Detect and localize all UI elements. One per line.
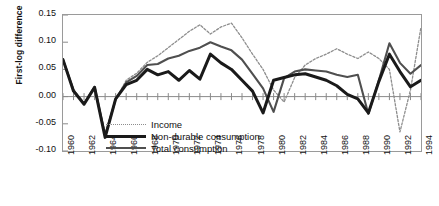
x-tick-label: 1982 [298, 135, 308, 155]
y-tick-label: 0.00 [22, 90, 56, 100]
x-tick-label: 1990 [382, 135, 392, 155]
legend-label-total: Total consumption [151, 143, 228, 154]
legend-label-income: Income [151, 119, 182, 130]
y-tick-label: 0.10 [22, 35, 56, 45]
chart-legend: Income Non-durable consumption Total con… [106, 118, 260, 154]
income-line-swatch-icon [106, 124, 146, 125]
legend-item-total: Total consumption [106, 142, 260, 154]
chart-figure: First-log difference 0.150.100.050.00-0.… [0, 0, 439, 206]
y-tick-label: -0.10 [22, 144, 56, 154]
nondurable-line-swatch-icon [106, 135, 146, 138]
x-tick-label: 1984 [319, 135, 329, 155]
total-line-swatch-icon [106, 147, 146, 149]
x-tick-label: 1994 [424, 135, 434, 155]
x-tick-label: 1960 [66, 135, 76, 155]
y-tick-label: -0.05 [22, 117, 56, 127]
legend-item-income: Income [106, 118, 260, 130]
x-tick-label: 1988 [361, 135, 371, 155]
x-tick-label: 1992 [403, 135, 413, 155]
legend-item-nondurable: Non-durable consumption [106, 130, 260, 142]
x-tick-label: 1986 [340, 135, 350, 155]
y-tick-label: 0.15 [22, 8, 56, 18]
y-tick-label: 0.05 [22, 62, 56, 72]
legend-label-nondurable: Non-durable consumption [151, 131, 260, 142]
x-tick-label: 1962 [87, 135, 97, 155]
x-tick-label: 1980 [277, 135, 287, 155]
